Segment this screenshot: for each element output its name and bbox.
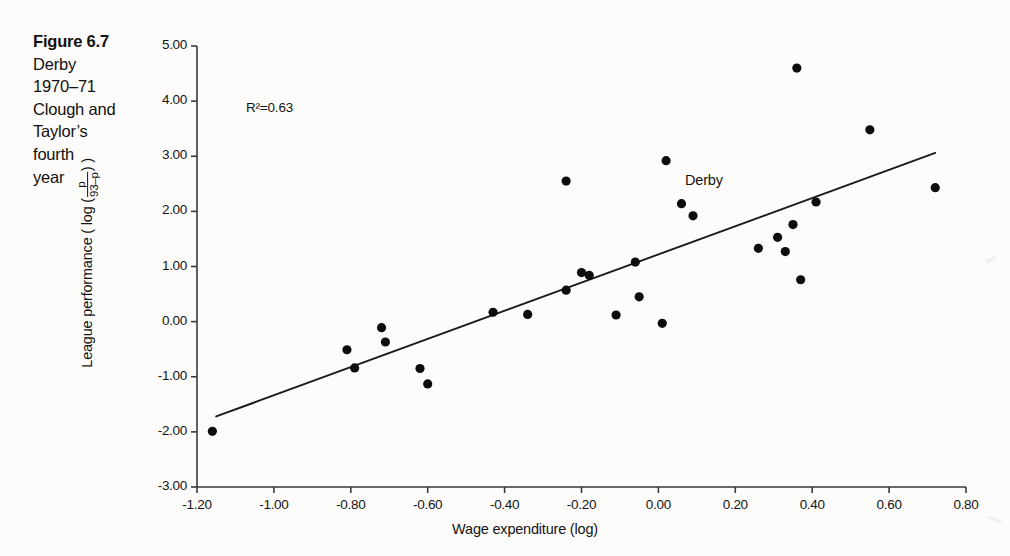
data-point	[688, 211, 697, 220]
fraction-denominator: 93–p	[87, 172, 100, 197]
x-tick-label: 0.00	[628, 497, 688, 512]
y-tick-label: -2.00	[131, 423, 187, 438]
derby-point-label: Derby	[685, 172, 723, 188]
x-tick-label: -0.80	[321, 497, 381, 512]
fraction-numerator: p	[75, 172, 87, 197]
x-axis-title-text: Wage expenditure (log)	[452, 521, 598, 537]
x-tick-label: 0.40	[782, 497, 842, 512]
x-tick-label: -0.60	[398, 497, 458, 512]
figure-root: Figure 6.7 Derby 1970–71 Clough and Tayl…	[0, 0, 1010, 556]
data-point	[342, 345, 351, 354]
x-tick-label: -0.20	[552, 497, 612, 512]
data-point	[677, 199, 686, 208]
x-tick-label: 0.60	[859, 497, 919, 512]
data-point	[658, 319, 667, 328]
data-point	[661, 156, 670, 165]
data-point	[811, 197, 820, 206]
data-point	[562, 176, 571, 185]
y-tick-label: 2.00	[131, 202, 187, 217]
data-point	[381, 337, 390, 346]
y-axis-title: League performance ( log (p93–p) )	[75, 98, 101, 428]
data-point	[788, 220, 797, 229]
data-point	[631, 257, 640, 266]
y-tick-label: -3.00	[131, 478, 187, 493]
data-point	[865, 125, 874, 134]
data-point	[781, 247, 790, 256]
y-axis-title-suffix: ) )	[79, 158, 95, 171]
data-point	[796, 275, 805, 284]
x-tick-label: -0.40	[475, 497, 535, 512]
data-point	[423, 379, 432, 388]
scatter-plot	[0, 0, 1010, 556]
data-point	[754, 244, 763, 253]
x-tick-label: 0.80	[936, 497, 996, 512]
data-point	[208, 427, 217, 436]
data-point	[377, 323, 386, 332]
r-squared-annotation: R²=0.63	[246, 100, 293, 115]
y-tick-label: 4.00	[131, 92, 187, 107]
trendline	[216, 153, 935, 416]
data-point	[612, 310, 621, 319]
y-tick-label: 3.00	[131, 147, 187, 162]
x-tick-label: -1.20	[167, 497, 227, 512]
data-point	[350, 363, 359, 372]
data-point	[488, 308, 497, 317]
data-point	[635, 292, 644, 301]
x-tick-label: -1.00	[244, 497, 304, 512]
data-point	[415, 364, 424, 373]
y-tick-label: 5.00	[131, 37, 187, 52]
y-axis-title-fraction: p93–p	[75, 172, 101, 197]
data-point	[585, 271, 594, 280]
x-axis-title: Wage expenditure (log)	[0, 521, 1010, 537]
y-axis-title-prefix: League performance ( log (	[79, 198, 95, 368]
data-point	[931, 183, 940, 192]
data-point	[792, 63, 801, 72]
data-point	[523, 310, 532, 319]
y-tick-label: 0.00	[131, 313, 187, 328]
y-tick-label: -1.00	[131, 368, 187, 383]
data-point	[562, 286, 571, 295]
y-tick-label: 1.00	[131, 258, 187, 273]
data-point	[773, 233, 782, 242]
x-tick-label: 0.20	[705, 497, 765, 512]
